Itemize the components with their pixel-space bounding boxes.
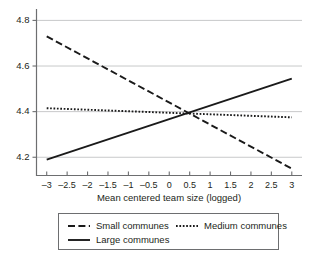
x-tick-labels-group: –3–2.5–2–1.5–1–0.500.511.522.53 [42,180,295,190]
x-tick-label: –1.5 [99,180,117,190]
chart-figure: 4.24.44.64.8 –3–2.5–2–1.5–1–0.500.511.52… [0,0,323,259]
x-tick-label: 0.5 [183,180,196,190]
legend-label: Small communes [96,220,169,231]
y-tick-label: 4.4 [16,105,29,116]
x-axis-title: Mean centered team size (logged) [97,192,241,203]
legend-label: Medium communes [204,220,287,231]
x-tick-label: –0.5 [140,180,158,190]
line-chart: 4.24.44.64.8 –3–2.5–2–1.5–1–0.500.511.52… [0,0,323,259]
y-tick-label: 4.6 [16,60,29,71]
series-lines-group [47,36,292,168]
series-line-small-communes [47,36,292,168]
x-tick-label: 3 [289,180,294,190]
y-tick-labels-group: 4.24.44.64.8 [16,14,29,162]
x-tick-label: –2 [83,180,93,190]
x-tick-label: 2 [248,180,253,190]
y-tick-label: 4.8 [16,14,29,25]
x-tick-label: –3 [42,180,52,190]
legend: Small communesMedium communesLarge commu… [59,214,288,250]
x-tick-label: 1 [208,180,213,190]
x-tick-label: –1 [123,180,133,190]
y-tick-label: 4.2 [16,151,29,162]
legend-label: Large communes [96,234,170,245]
x-tick-label: –2.5 [58,180,76,190]
x-tick-label: 2.5 [265,180,278,190]
series-line-medium-communes [47,108,292,117]
series-line-large-communes [47,79,292,160]
legend-items-group: Small communesMedium communesLarge commu… [68,220,287,245]
x-tick-label: 0 [167,180,172,190]
x-tick-label: 1.5 [224,180,237,190]
